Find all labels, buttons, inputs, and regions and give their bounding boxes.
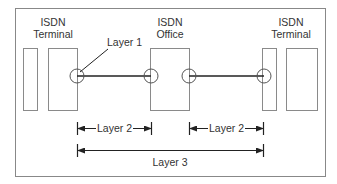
layer1-label: Layer 1 xyxy=(107,36,142,48)
svg-text:Layer 2: Layer 2 xyxy=(209,122,244,134)
layer2-left-dimension: Layer 2 xyxy=(78,122,152,135)
svg-text:Office: Office xyxy=(156,28,183,40)
right-terminal-label: ISDN Terminal xyxy=(271,16,311,40)
layer3-dimension: Layer 3 xyxy=(78,144,264,168)
svg-text:ISDN: ISDN xyxy=(157,16,182,28)
right-terminal-box xyxy=(287,49,318,111)
left-terminal-thin-box xyxy=(24,49,38,111)
svg-text:Layer 2: Layer 2 xyxy=(97,122,132,134)
svg-text:Terminal: Terminal xyxy=(271,28,311,40)
svg-text:Layer 3: Layer 3 xyxy=(152,156,187,168)
svg-text:ISDN: ISDN xyxy=(40,16,65,28)
left-terminal-box xyxy=(49,49,78,111)
layer1-leader-line xyxy=(80,49,108,72)
left-terminal-label: ISDN Terminal xyxy=(33,16,73,40)
layer2-right-dimension: Layer 2 xyxy=(190,122,264,135)
office-box xyxy=(151,49,190,111)
svg-text:ISDN: ISDN xyxy=(278,16,303,28)
office-label: ISDN Office xyxy=(156,16,183,40)
isdn-diagram: ISDN Terminal ISDN Office ISDN Terminal … xyxy=(0,0,337,184)
svg-text:Terminal: Terminal xyxy=(33,28,73,40)
